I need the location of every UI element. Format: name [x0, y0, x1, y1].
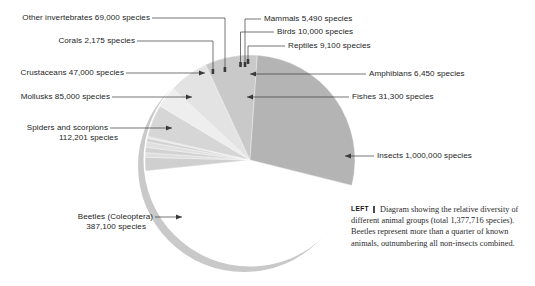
caption-lead-label: LEFT [351, 205, 369, 212]
label-insects: Insects 1,000,000 species [377, 151, 472, 161]
label-corals: Corals 2,175 species [0, 36, 135, 46]
label-mammals: Mammals 5,490 species [264, 14, 352, 24]
label-birds: Birds 10,000 species [277, 27, 353, 37]
caption-text: Diagram showing the relative diversity o… [351, 205, 518, 248]
label-spiders-line2: 112,201 species [0, 133, 118, 143]
caption-divider-bar [373, 206, 375, 214]
label-beetles-line1: Beetles (Coleoptera) [0, 212, 153, 222]
tick-mammals [244, 62, 247, 67]
figure-root: Other invertebrates 69,000 species Coral… [0, 0, 535, 286]
figure-caption: LEFTDiagram showing the relative diversi… [351, 203, 535, 249]
tick-corals [212, 69, 215, 74]
label-beetles-line2: 387,100 species [0, 222, 146, 232]
tick-other-invertebrates [224, 67, 227, 72]
label-crustaceans: Crustaceans 47,000 species [0, 68, 124, 78]
label-amphibians: Amphibians 6,450 species [369, 69, 465, 79]
label-other-invertebrates: Other invertebrates 69,000 species [0, 13, 150, 23]
label-reptiles: Reptiles 9,100 species [288, 41, 371, 51]
tick-birds [239, 62, 242, 67]
label-mollusks: Mollusks 85,000 species [0, 92, 110, 102]
tick-reptiles [247, 59, 250, 64]
label-spiders-line1: Spiders and scorpions [0, 123, 108, 133]
label-fishes: Fishes 31,300 species [352, 92, 434, 102]
